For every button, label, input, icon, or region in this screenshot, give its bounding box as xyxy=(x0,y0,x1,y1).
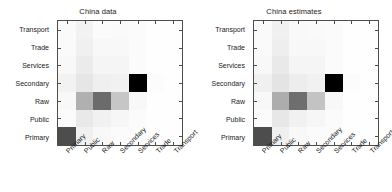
x-axis-tick-label: Trade xyxy=(351,149,356,154)
heatmap-cell xyxy=(289,21,307,39)
heatmap-cell xyxy=(76,74,94,92)
heatmap-cell xyxy=(307,56,325,74)
y-axis-tick-label: Public xyxy=(226,116,245,123)
x-axis-tick-label: Raw xyxy=(297,149,302,154)
heatmap-cell xyxy=(360,110,378,128)
heatmap-cell xyxy=(93,110,111,128)
heatmap-cell xyxy=(164,92,182,110)
x-axis-tick-label: Transport xyxy=(173,149,178,154)
heatmap-cell xyxy=(93,74,111,92)
heatmap-cell xyxy=(325,110,343,128)
heatmap-cell xyxy=(111,110,129,128)
heatmap-cell xyxy=(111,21,129,39)
heatmap-cell xyxy=(147,56,165,74)
x-axis-tick-label: Services xyxy=(333,149,338,154)
heatmap-cell xyxy=(272,21,290,39)
x-axis-tick-label: Primary xyxy=(261,149,266,154)
heatmap-cell xyxy=(129,74,147,92)
heatmap-cell xyxy=(325,39,343,57)
y-axis-tick-label: Trade xyxy=(31,44,49,51)
heatmap-cell xyxy=(58,21,76,39)
y-axis-tick-label: Transport xyxy=(215,26,245,33)
heatmap-cell xyxy=(76,92,94,110)
heatmap-cell xyxy=(164,56,182,74)
heatmap-cell xyxy=(129,39,147,57)
heatmap-cell xyxy=(360,74,378,92)
y-axis-tick-label: Trade xyxy=(227,44,245,51)
heatmap-cell xyxy=(325,56,343,74)
heatmap-cell xyxy=(254,21,272,39)
heatmap-grid xyxy=(58,21,182,145)
y-axis-tick-label: Raw xyxy=(231,98,245,105)
heatmap-cell xyxy=(289,56,307,74)
heatmap-cell xyxy=(129,56,147,74)
heatmap-cell xyxy=(325,92,343,110)
heatmap-cell xyxy=(147,74,165,92)
heatmap-cell xyxy=(254,39,272,57)
heatmap-cell xyxy=(58,39,76,57)
x-axis-tick-label: Primary xyxy=(65,149,70,154)
y-axis-tick-label: Raw xyxy=(35,98,49,105)
heatmap-cell xyxy=(147,21,165,39)
panel-china-estimates: China estimates TransportTradeServicesSe… xyxy=(196,0,392,192)
heatmap-cell xyxy=(76,110,94,128)
x-axis-tick-label: Raw xyxy=(101,149,106,154)
heatmap-cell xyxy=(272,92,290,110)
panel-title: China estimates xyxy=(196,7,392,16)
heatmap-cell xyxy=(360,56,378,74)
x-axis-tick-label: Public xyxy=(279,149,284,154)
heatmap-cell xyxy=(343,92,361,110)
heatmap-grid xyxy=(254,21,378,145)
heatmap-cell xyxy=(254,92,272,110)
heatmap-cell xyxy=(272,56,290,74)
heatmap-cell xyxy=(289,39,307,57)
heatmap-cell xyxy=(58,92,76,110)
heatmap-cell xyxy=(111,92,129,110)
y-axis-labels: TransportTradeServicesSecondaryRawPublic… xyxy=(0,20,53,146)
heatmap-cell xyxy=(147,92,165,110)
heatmap-cell xyxy=(360,92,378,110)
heatmap-cell xyxy=(147,110,165,128)
heatmap-cell xyxy=(307,74,325,92)
heatmap-cell xyxy=(289,74,307,92)
heatmap-cell xyxy=(307,92,325,110)
y-axis-tick-label: Services xyxy=(218,62,245,69)
heatmap-cell xyxy=(164,21,182,39)
heatmap-cell xyxy=(360,39,378,57)
x-axis-labels: PrimaryPublicRawSecondaryServicesTradeTr… xyxy=(253,146,379,192)
heatmap-cell xyxy=(325,74,343,92)
y-axis-labels: TransportTradeServicesSecondaryRawPublic… xyxy=(196,20,249,146)
heatmap-cell xyxy=(307,21,325,39)
y-axis-tick-label: Primary xyxy=(221,134,245,141)
panel-title: China data xyxy=(0,7,196,16)
heatmap-cell xyxy=(343,74,361,92)
heatmap-cell xyxy=(129,21,147,39)
plot-area xyxy=(57,20,183,146)
heatmap-cell xyxy=(360,21,378,39)
heatmap-figure: China data TransportTradeServicesSeconda… xyxy=(0,0,392,192)
y-axis-tick-label: Public xyxy=(30,116,49,123)
x-axis-tick-label: Services xyxy=(137,149,142,154)
heatmap-cell xyxy=(93,39,111,57)
panel-china-data: China data TransportTradeServicesSeconda… xyxy=(0,0,196,192)
heatmap-cell xyxy=(272,110,290,128)
x-axis-labels: PrimaryPublicRawSecondaryServicesTradeTr… xyxy=(57,146,183,192)
y-axis-tick-label: Services xyxy=(22,62,49,69)
heatmap-cell xyxy=(111,74,129,92)
y-axis-tick-label: Secondary xyxy=(16,80,49,87)
heatmap-cell xyxy=(272,74,290,92)
heatmap-cell xyxy=(254,56,272,74)
heatmap-cell xyxy=(164,39,182,57)
x-axis-tick-label: Secondary xyxy=(119,149,124,154)
heatmap-cell xyxy=(76,21,94,39)
heatmap-cell xyxy=(343,56,361,74)
heatmap-cell xyxy=(129,110,147,128)
heatmap-cell xyxy=(111,39,129,57)
plot-area xyxy=(253,20,379,146)
x-axis-tick-label: Public xyxy=(83,149,88,154)
heatmap-cell xyxy=(254,74,272,92)
heatmap-cell xyxy=(93,56,111,74)
heatmap-cell xyxy=(147,39,165,57)
heatmap-cell xyxy=(289,110,307,128)
heatmap-cell xyxy=(325,21,343,39)
